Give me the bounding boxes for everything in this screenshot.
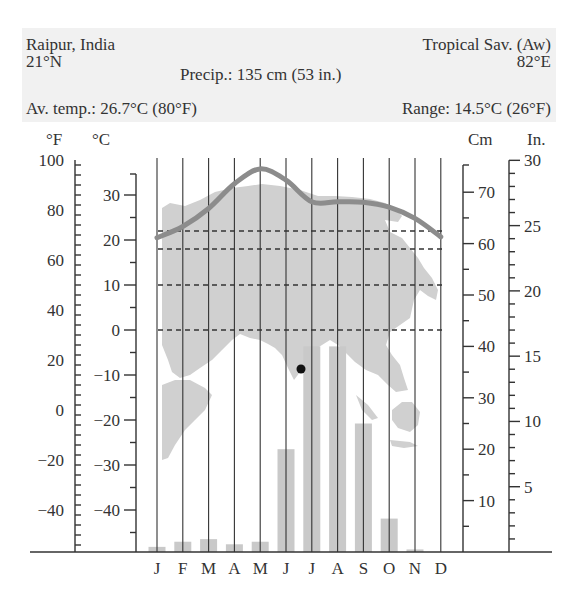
- svg-text:10: 10: [478, 492, 495, 511]
- svg-text:−40: −40: [93, 501, 120, 520]
- svg-text:10: 10: [524, 412, 541, 431]
- svg-text:80: 80: [47, 201, 64, 220]
- svg-text:−40: −40: [37, 501, 64, 520]
- month-label: J: [154, 559, 161, 578]
- svg-text:−20: −20: [93, 411, 120, 430]
- in-axis-label: In.: [527, 130, 545, 149]
- svg-text:10: 10: [103, 276, 120, 295]
- month-label: A: [228, 559, 241, 578]
- month-label: O: [383, 559, 395, 578]
- month-label: M: [253, 559, 268, 578]
- svg-text:60: 60: [478, 235, 495, 254]
- month-label: A: [331, 559, 344, 578]
- month-label: J: [308, 559, 315, 578]
- svg-text:20: 20: [47, 351, 64, 370]
- svg-text:20: 20: [524, 282, 541, 301]
- svg-text:70: 70: [478, 183, 495, 202]
- month-labels: JFMAMJJASOND: [154, 559, 447, 578]
- svg-text:0: 0: [56, 401, 65, 420]
- svg-text:25: 25: [524, 217, 541, 236]
- svg-text:0: 0: [112, 321, 121, 340]
- month-label: S: [359, 559, 368, 578]
- svg-text:50: 50: [478, 286, 495, 305]
- svg-text:20: 20: [103, 231, 120, 250]
- svg-text:30: 30: [478, 389, 495, 408]
- svg-text:60: 60: [47, 251, 64, 270]
- svg-text:−30: −30: [93, 456, 120, 475]
- svg-text:15: 15: [524, 347, 541, 366]
- world-map-silhouette: [162, 184, 438, 460]
- svg-text:100: 100: [39, 151, 65, 170]
- svg-text:5: 5: [524, 478, 533, 497]
- f-axis-label: °F: [46, 130, 62, 149]
- month-label: N: [409, 559, 421, 578]
- cm-axis-label: Cm: [468, 130, 493, 149]
- svg-text:20: 20: [478, 440, 495, 459]
- svg-text:40: 40: [47, 301, 64, 320]
- svg-text:30: 30: [103, 186, 120, 205]
- c-axis-label: °C: [92, 130, 110, 149]
- month-label: D: [435, 559, 447, 578]
- month-label: M: [201, 559, 216, 578]
- month-label: F: [178, 559, 187, 578]
- location-dot-icon: [297, 365, 306, 374]
- svg-text:40: 40: [478, 337, 495, 356]
- svg-text:30: 30: [524, 151, 541, 170]
- svg-text:−20: −20: [37, 451, 64, 470]
- month-label: J: [283, 559, 290, 578]
- climograph: 100806040200−20−40°F3020100−10−20−30−40°…: [0, 0, 579, 598]
- svg-text:−10: −10: [93, 366, 120, 385]
